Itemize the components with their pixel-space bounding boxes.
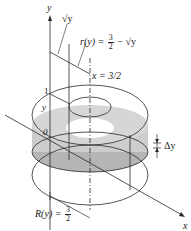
frac-den: 2 xyxy=(66,215,70,223)
curve-line xyxy=(50,52,90,74)
x-axis-arrow-icon xyxy=(179,212,185,217)
inner-radius-prefix: r(y) = xyxy=(80,36,104,47)
sqrt-y-label: √y xyxy=(62,14,73,24)
inner-radius-suffix: − √y xyxy=(117,36,136,47)
delta-y-arrow-down-icon xyxy=(155,139,159,143)
sqrt-leader xyxy=(58,24,67,54)
delta-y-marker xyxy=(153,134,161,158)
one-label: 1 xyxy=(44,87,49,96)
inner-radius-fraction: 32 xyxy=(108,34,114,51)
outer-radius-label: R(y) = 32 xyxy=(35,206,72,223)
outer-radius-prefix: R(y) = xyxy=(35,208,61,219)
frac-den: 2 xyxy=(109,43,113,51)
outer-radius-fraction: 32 xyxy=(65,206,71,223)
delta-y-label: Δy xyxy=(164,141,175,151)
origin-label: 0 xyxy=(43,128,48,137)
delta-y-arrow-up-icon xyxy=(155,148,159,152)
inner-radius-label: r(y) = 32 − √y xyxy=(80,34,136,51)
x-equals-label: x = 3/2 xyxy=(92,71,121,81)
y-axis-label: y xyxy=(47,3,51,13)
y-axis-arrow-icon xyxy=(48,15,52,21)
y-level-label: y xyxy=(42,103,46,112)
boundary-line xyxy=(50,94,70,104)
x-axis-label: x xyxy=(183,221,187,231)
